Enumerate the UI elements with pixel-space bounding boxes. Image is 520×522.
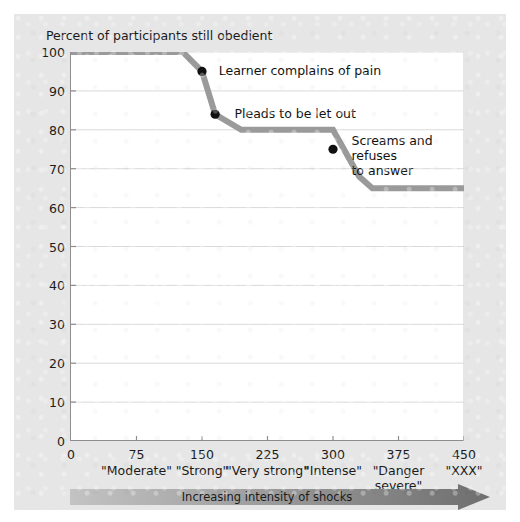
x-category-label: "XXX"	[422, 464, 506, 479]
data-point-marker	[211, 110, 220, 119]
plot-area: 0102030405060708090100075"Moderate"150"S…	[70, 52, 463, 441]
y-tick-label: 50	[49, 239, 65, 254]
y-tick-label: 0	[57, 434, 65, 449]
x-tick-label: 225	[256, 447, 280, 462]
y-tick-label: 10	[49, 395, 65, 410]
x-tick-label: 375	[387, 447, 411, 462]
y-tick-label: 60	[49, 200, 65, 215]
x-tick-label: 300	[321, 447, 345, 462]
x-tick-label: 0	[67, 447, 75, 462]
x-tick-label: 150	[190, 447, 214, 462]
figure-panel: Percent of participants still obedient 0…	[14, 14, 506, 510]
y-tick-label: 20	[49, 356, 65, 371]
x-tick-label: 75	[129, 447, 145, 462]
y-tick-label: 80	[49, 122, 65, 137]
y-tick-label: 100	[41, 45, 65, 60]
intensity-arrow: Increasing intensity of shocks	[70, 484, 490, 510]
annotation-label: Screams and refuses to answer	[351, 133, 463, 178]
y-tick-label: 30	[49, 317, 65, 332]
data-point-marker	[197, 67, 206, 76]
arrow-caption: Increasing intensity of shocks	[70, 490, 490, 504]
y-axis-title: Percent of participants still obedient	[46, 28, 272, 43]
y-tick-label: 90	[49, 83, 65, 98]
x-tick-label: 450	[452, 447, 476, 462]
annotation-label: Learner complains of pain	[219, 63, 381, 78]
annotation-label: Pleads to be let out	[234, 106, 355, 121]
y-tick-label: 40	[49, 278, 65, 293]
y-tick-label: 70	[49, 161, 65, 176]
data-point-marker	[328, 145, 337, 154]
